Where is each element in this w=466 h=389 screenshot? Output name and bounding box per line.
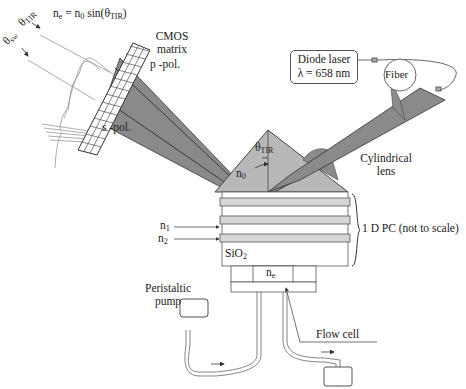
prism-n0-label: n0: [236, 167, 246, 181]
formula-label: ne = n0 sin(θTIR): [53, 7, 127, 21]
stack-brace: [352, 194, 360, 266]
prism-theta-label: θTIR: [255, 141, 273, 155]
ne-label: ne: [266, 266, 275, 280]
reflectance-curves: [28, 35, 115, 168]
substrate-label: SiO2: [225, 247, 247, 261]
stack-label: 1 D PC (not to scale): [362, 222, 459, 235]
waste-container: [324, 367, 352, 386]
cmos-label: CMOSmatrix: [150, 30, 194, 56]
s-pol-label: s -pol.: [102, 121, 131, 134]
p-pol-label: p -pol.: [150, 58, 180, 71]
flow-cell-label: Flow cell: [316, 328, 359, 341]
n2-label: n2: [158, 232, 168, 246]
diode-laser-box: Diode laserλ = 658 nm: [290, 50, 358, 84]
pump-label: Peristalticpump: [138, 282, 198, 308]
setup-diagram: [0, 0, 466, 389]
fiber-label: Fiber: [385, 68, 408, 81]
cylindrical-lens-label: Cylindricallens: [356, 152, 416, 178]
